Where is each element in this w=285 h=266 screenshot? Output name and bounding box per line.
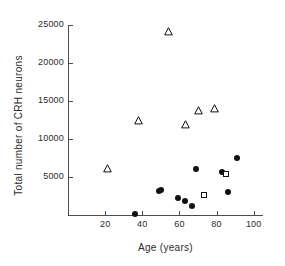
y-axis-title: Total number of CRH neurons bbox=[13, 46, 24, 206]
y-tick-label-text: 5000 bbox=[20, 172, 64, 181]
x-tick-label: 40 bbox=[127, 220, 157, 229]
y-tick-label: 5000 bbox=[20, 172, 64, 181]
data-point-circle bbox=[234, 155, 240, 161]
y-tick-mark bbox=[69, 63, 73, 64]
data-point-square bbox=[201, 192, 207, 198]
y-tick-mark bbox=[69, 139, 73, 140]
x-tick-mark bbox=[179, 211, 180, 215]
y-tick-label-text: 25000 bbox=[20, 20, 64, 29]
data-point-circle bbox=[225, 189, 231, 195]
x-tick-label: 60 bbox=[164, 220, 194, 229]
x-tick-mark bbox=[254, 211, 255, 215]
data-point-circle bbox=[158, 187, 164, 193]
y-tick-mark bbox=[69, 25, 73, 26]
data-point-triangle bbox=[139, 121, 144, 126]
x-axis-line bbox=[68, 215, 263, 216]
data-point-triangle bbox=[198, 110, 203, 115]
y-tick-mark bbox=[69, 101, 73, 102]
data-point-triangle bbox=[168, 32, 173, 37]
y-tick-label: 10000 bbox=[20, 134, 64, 143]
data-point-triangle bbox=[107, 169, 112, 174]
y-axis-line bbox=[68, 25, 69, 216]
data-point-circle bbox=[193, 166, 199, 172]
x-tick-label: 80 bbox=[202, 220, 232, 229]
y-tick-mark bbox=[69, 177, 73, 178]
scatter-plot-figure: 500010000150002000025000 20406080100 Tot… bbox=[0, 0, 285, 266]
data-point-circle bbox=[189, 203, 195, 209]
data-point-circle bbox=[182, 198, 188, 204]
data-point-circle bbox=[175, 195, 181, 201]
y-tick-label-text: 20000 bbox=[20, 58, 64, 67]
data-point-triangle bbox=[185, 125, 190, 130]
x-tick-mark bbox=[105, 211, 106, 215]
plot-area: 500010000150002000025000 20406080100 Tot… bbox=[0, 0, 285, 266]
y-tick-label: 15000 bbox=[20, 96, 64, 105]
y-tick-label: 20000 bbox=[20, 58, 64, 67]
y-tick-label-text: 15000 bbox=[20, 96, 64, 105]
x-axis-title: Age (years) bbox=[68, 242, 263, 253]
data-point-triangle bbox=[215, 109, 220, 114]
x-tick-label: 20 bbox=[90, 220, 120, 229]
y-tick-label: 25000 bbox=[20, 20, 64, 29]
x-tick-label: 100 bbox=[239, 220, 269, 229]
data-point-square bbox=[223, 171, 229, 177]
data-point-circle bbox=[132, 211, 138, 217]
x-tick-mark bbox=[142, 211, 143, 215]
y-tick-label-text: 10000 bbox=[20, 134, 64, 143]
x-tick-mark bbox=[217, 211, 218, 215]
